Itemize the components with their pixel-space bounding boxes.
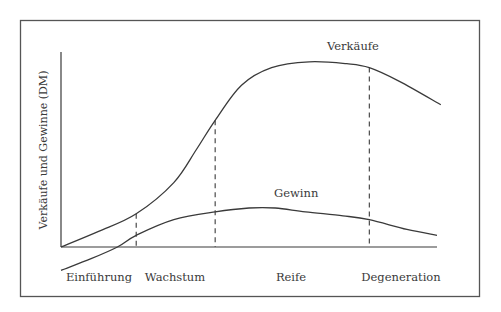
series-line-gewinn	[61, 207, 437, 270]
phase-label-degeneration: Degeneration	[361, 270, 441, 284]
phase-label-reife: Reife	[276, 270, 306, 284]
series-label-verkaeufe: Verkäufe	[326, 39, 379, 53]
phase-labels: Einführung Wachstum Reife Degeneration	[66, 270, 441, 284]
chart-frame	[21, 21, 480, 297]
series-layer	[61, 62, 441, 271]
series-line-verkaeufe	[61, 62, 441, 247]
product-life-cycle-chart: Verkäufe und Gewinne (DM) Verkäufe Gewin…	[0, 0, 501, 312]
phase-label-wachstum: Wachstum	[145, 270, 205, 284]
y-axis-label: Verkäufe und Gewinne (DM)	[37, 71, 50, 231]
phase-label-einfuehrung: Einführung	[66, 270, 133, 284]
series-label-gewinn: Gewinn	[274, 186, 319, 200]
